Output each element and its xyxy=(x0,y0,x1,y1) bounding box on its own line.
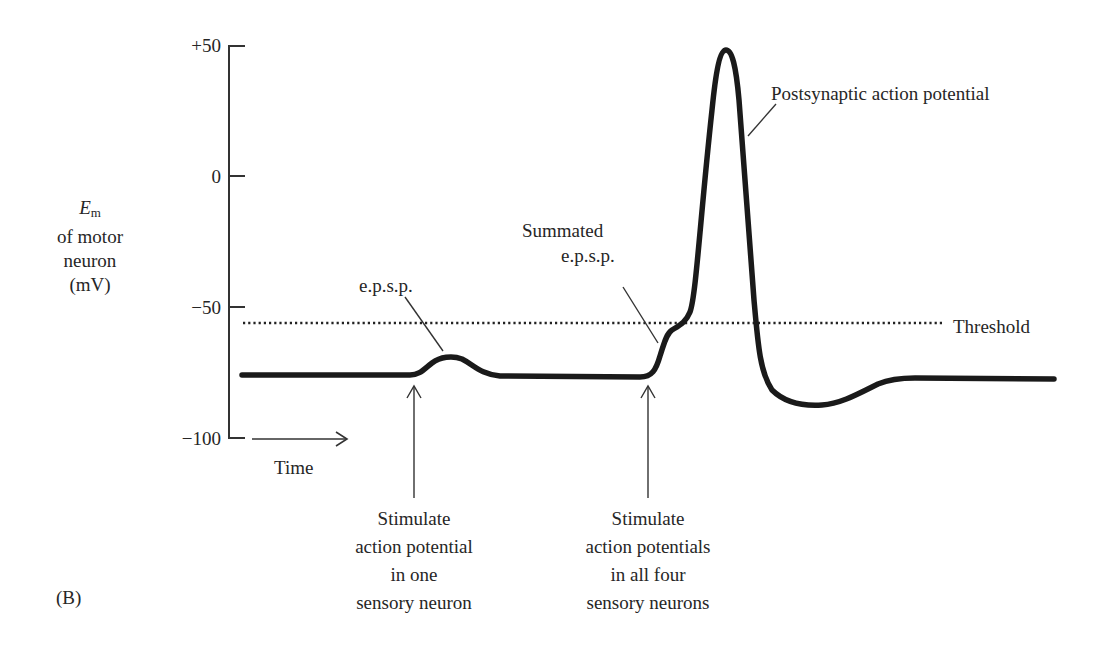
caption-line: in one xyxy=(324,561,504,589)
y-axis-label: Em of motor neuron (mV) xyxy=(40,196,140,297)
y-axis-label-line: of motor xyxy=(40,225,140,249)
caption-line: action potentials xyxy=(548,533,748,561)
y-axis xyxy=(229,45,245,439)
y-tick-label-minus100: −100 xyxy=(151,427,221,450)
stimulus-arrow-one-icon xyxy=(407,386,421,498)
epsp-label: e.p.s.p. xyxy=(359,274,413,297)
threshold-label: Threshold xyxy=(953,315,1030,338)
caption-line: sensory neuron xyxy=(324,589,504,617)
caption-line: in all four xyxy=(548,561,748,589)
summated-epsp-label-line1: Summated xyxy=(522,219,603,242)
x-axis-label: Time xyxy=(274,456,313,479)
summated-epsp-label-line2: e.p.s.p. xyxy=(561,244,615,267)
stimulate-all-caption: Stimulate action potentials in all four … xyxy=(548,505,748,617)
y-axis-label-line: neuron xyxy=(40,249,140,273)
caption-line: Stimulate xyxy=(324,505,504,533)
y-axis-label-line: (mV) xyxy=(40,273,140,297)
caption-line: sensory neurons xyxy=(548,589,748,617)
postsynaptic-ap-label: Postsynaptic action potential xyxy=(771,82,989,105)
y-axis-symbol: E xyxy=(79,197,91,218)
time-arrow-icon xyxy=(252,432,347,446)
y-axis-subscript: m xyxy=(91,205,101,220)
y-tick-label-minus50: −50 xyxy=(151,296,221,319)
y-tick-label-0: 0 xyxy=(151,165,221,188)
caption-line: Stimulate xyxy=(548,505,748,533)
stimulus-arrow-all-icon xyxy=(641,386,655,498)
panel-label: (B) xyxy=(56,586,81,609)
y-tick-label-plus50: +50 xyxy=(151,34,221,57)
caption-line: action potential xyxy=(324,533,504,561)
stimulate-one-caption: Stimulate action potential in one sensor… xyxy=(324,505,504,617)
